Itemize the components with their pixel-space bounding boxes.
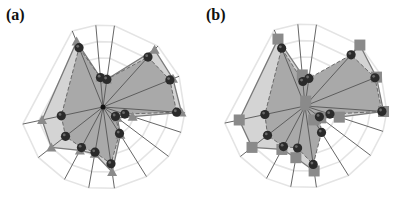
circle-marker xyxy=(309,160,318,169)
circle-marker xyxy=(260,110,269,119)
square-marker xyxy=(272,34,283,45)
circle-marker xyxy=(325,110,334,119)
circle-highlight xyxy=(167,77,170,80)
circle-highlight xyxy=(59,113,62,116)
circle-highlight xyxy=(327,111,330,114)
circle-marker xyxy=(346,50,355,59)
circle-marker xyxy=(370,73,379,82)
circle-highlight xyxy=(63,133,66,136)
center-marker xyxy=(301,102,310,111)
circle-highlight xyxy=(279,45,282,48)
circle-highlight xyxy=(108,161,111,164)
radar-panel-b: (b) xyxy=(200,0,399,199)
circle-marker xyxy=(279,142,288,151)
circle-highlight xyxy=(145,54,148,57)
square-marker xyxy=(234,114,245,125)
panel-label-b: (b) xyxy=(206,6,226,24)
circle-marker xyxy=(115,129,124,138)
circle-highlight xyxy=(174,109,177,112)
circle-highlight xyxy=(262,112,265,115)
circle-highlight xyxy=(265,132,268,135)
square-marker xyxy=(334,112,345,123)
radar-panel-a: (a) xyxy=(0,0,200,199)
circle-marker xyxy=(277,44,286,53)
circle-highlight xyxy=(281,144,284,147)
circle-highlight xyxy=(295,145,298,148)
circle-marker xyxy=(120,109,129,118)
circle-marker xyxy=(90,148,99,157)
circle-highlight xyxy=(306,76,309,79)
circle-highlight xyxy=(92,149,95,152)
radar-chart-b xyxy=(200,0,399,199)
square-marker xyxy=(290,152,301,163)
circle-marker xyxy=(102,75,111,84)
circle-highlight xyxy=(113,114,116,117)
circle-highlight xyxy=(311,162,314,165)
circle-highlight xyxy=(317,114,320,117)
circle-marker xyxy=(106,159,115,168)
circle-marker xyxy=(293,143,302,152)
circle-highlight xyxy=(122,111,125,114)
radar-chart-a xyxy=(0,0,200,199)
center-marker xyxy=(101,105,106,110)
circle-highlight xyxy=(319,130,322,133)
square-marker xyxy=(354,40,365,51)
circle-marker xyxy=(143,52,152,61)
square-marker xyxy=(247,142,258,153)
circle-marker xyxy=(172,108,181,117)
circle-marker xyxy=(315,112,324,121)
circle-marker xyxy=(111,112,120,121)
circle-marker xyxy=(304,74,313,83)
panel-label-a: (a) xyxy=(6,6,25,24)
circle-marker xyxy=(61,132,70,141)
circle-highlight xyxy=(79,145,82,148)
circle-marker xyxy=(74,43,83,52)
circle-marker xyxy=(165,75,174,84)
circle-highlight xyxy=(372,75,375,78)
circle-marker xyxy=(263,131,272,140)
circle-highlight xyxy=(104,77,107,80)
circle-highlight xyxy=(300,79,303,82)
circle-highlight xyxy=(76,45,79,48)
circle-marker xyxy=(377,107,386,116)
circle-highlight xyxy=(98,75,101,78)
circle-marker xyxy=(317,128,326,137)
circle-marker xyxy=(57,111,66,120)
circle-highlight xyxy=(117,131,120,134)
circle-marker xyxy=(77,143,86,152)
circle-highlight xyxy=(379,109,382,112)
circle-highlight xyxy=(348,52,351,55)
